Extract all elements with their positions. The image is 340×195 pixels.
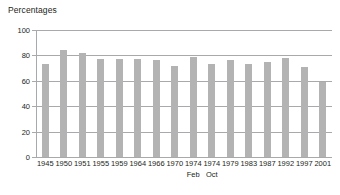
bar [116,59,123,157]
bar [60,50,67,157]
plot-area [36,30,332,157]
bar [208,64,215,157]
y-tick-label: 20 [22,127,30,136]
x-tick-label: 1979 [222,159,239,168]
bar [171,66,178,157]
bar [282,58,289,157]
x-axis-labels: 194519501951195519591964196619701974Feb1… [36,159,332,193]
x-tick-label: 1974 [203,159,220,168]
gridline-0 [36,157,332,158]
y-tick-label: 0 [26,153,30,162]
x-tick-label: 1966 [148,159,165,168]
y-tick-label: 100 [17,26,30,35]
x-tick-label: 1992 [277,159,294,168]
bar [134,59,141,157]
bar [264,62,271,157]
bar [301,67,308,157]
x-tick-label: 2001 [314,159,331,168]
x-tick-label: 1950 [55,159,72,168]
x-tick-label: 1955 [92,159,109,168]
bar [319,82,326,157]
bars-group [36,30,332,157]
bar [42,64,49,157]
y-tick-label: 80 [22,51,30,60]
x-tick-label: 1964 [129,159,146,168]
x-tick-label: 1974 [185,159,202,168]
y-axis-labels: 020406080100 [0,0,30,195]
bar [245,64,252,157]
y-tick-label: 60 [22,76,30,85]
x-tick-label: 1970 [166,159,183,168]
x-tick-sublabel: Feb [187,170,200,179]
x-tick-label: 1997 [296,159,313,168]
bar [97,59,104,157]
x-tick-label: 1945 [37,159,54,168]
bar [79,53,86,157]
x-tick-sublabel: Oct [206,170,218,179]
x-tick-label: 1983 [240,159,257,168]
bar-chart: Percentages 020406080100 194519501951195… [0,0,340,195]
bar [227,60,234,157]
y-tick-mark-0 [32,157,36,158]
x-tick-label: 1987 [259,159,276,168]
x-tick-label: 1959 [111,159,128,168]
y-tick-label: 40 [22,102,30,111]
bar [153,60,160,157]
x-tick-label: 1951 [74,159,91,168]
bar [190,57,197,157]
